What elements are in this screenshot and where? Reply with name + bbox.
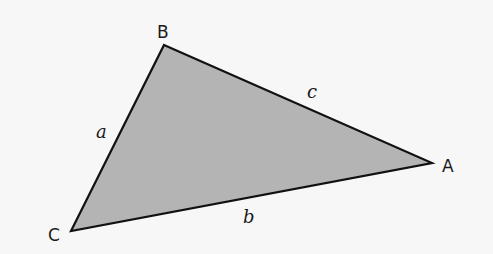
vertex-label-a: A [442,156,454,176]
triangle-diagram: B A C a b c [0,0,493,254]
side-label-c: c [307,81,317,102]
vertex-label-b: B [157,22,169,42]
triangle-abc [71,45,432,231]
side-label-a: a [96,121,107,142]
side-label-b: b [243,206,255,227]
vertex-label-c: C [48,225,60,245]
